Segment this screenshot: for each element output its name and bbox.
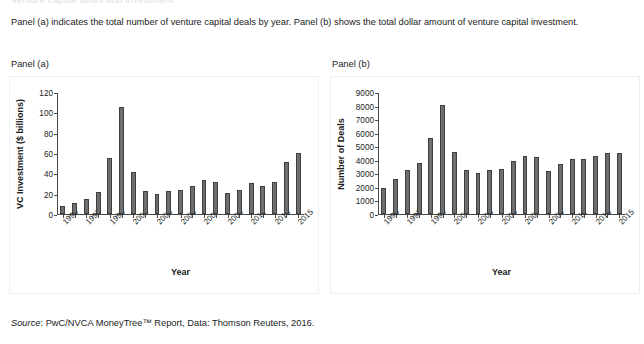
panel-b-bar-2013 bbox=[593, 156, 598, 214]
panel-b-bar-2006 bbox=[511, 161, 516, 214]
figure-page: venture capital deals and investment Pan… bbox=[0, 0, 644, 344]
panel-b-bar-1999 bbox=[428, 138, 433, 214]
clipped-header-text: venture capital deals and investment bbox=[12, 0, 173, 5]
panel-b-chart: 0100020003000400050006000700080009000199… bbox=[330, 76, 640, 294]
panel-a-y-axis-line bbox=[57, 93, 58, 215]
panel-a-bar-2010 bbox=[237, 190, 242, 214]
panel-b-bar-2007 bbox=[523, 156, 528, 214]
panel-a-bar-2004 bbox=[166, 191, 171, 214]
panel-b-xtick-mark bbox=[419, 215, 420, 218]
panel-b-xtick-mark bbox=[443, 215, 444, 218]
panel-b-bar-2011 bbox=[570, 159, 575, 214]
panel-b-xtick-mark bbox=[513, 215, 514, 218]
panel-a-xtick-mark bbox=[239, 215, 240, 218]
panel-a-bar-2008 bbox=[213, 182, 218, 214]
panel-b-xtick-mark bbox=[466, 215, 467, 218]
panel-a-ytick-mark bbox=[54, 93, 57, 94]
panel-a-xtick-mark bbox=[98, 215, 99, 218]
panel-b-bar-1996 bbox=[393, 179, 398, 214]
panel-b-ytick-mark bbox=[375, 174, 378, 175]
panel-a-bar-2014 bbox=[284, 162, 289, 214]
panel-b-bar-2014 bbox=[605, 153, 610, 214]
panel-b-ytick-mark bbox=[375, 147, 378, 148]
panel-b-bar-2015 bbox=[617, 153, 622, 214]
panel-b-ytick-mark bbox=[375, 93, 378, 94]
figure-caption: Panel (a) indicates the total number of … bbox=[11, 15, 623, 29]
panel-b-bar-2003 bbox=[476, 173, 481, 214]
panel-b-bar-2001 bbox=[452, 152, 457, 214]
panel-a-ytick-mark bbox=[54, 215, 57, 216]
panel-a-xtick-mark bbox=[263, 215, 264, 218]
panel-a-bar-2013 bbox=[272, 182, 277, 214]
panel-a-bar-1999 bbox=[107, 158, 112, 214]
panel-b-ytick-mark bbox=[375, 161, 378, 162]
panel-b-bar-2012 bbox=[581, 159, 586, 214]
panel-a-ytick-mark bbox=[54, 154, 57, 155]
panel-b-ytick-mark bbox=[375, 107, 378, 108]
panel-b-bar-2002 bbox=[464, 170, 469, 214]
panel-a-bar-2012 bbox=[260, 186, 265, 214]
panel-b-bar-2000 bbox=[440, 105, 445, 214]
panel-b-xtick-mark bbox=[584, 215, 585, 218]
panel-a-title: Panel (a) bbox=[11, 59, 49, 69]
panel-a-xtick-mark bbox=[192, 215, 193, 218]
panel-a-ytick-mark bbox=[54, 174, 57, 175]
source-label: Source bbox=[11, 318, 40, 328]
source-note: Source: PwC/NVCA MoneyTree™ Report, Data… bbox=[11, 318, 314, 328]
panel-a-ytick-mark bbox=[54, 195, 57, 196]
panel-b-xtick-mark bbox=[490, 215, 491, 218]
panel-b-x-axis-label: Year bbox=[378, 267, 625, 277]
panel-b-bar-2009 bbox=[546, 171, 551, 214]
source-value: : PwC/NVCA MoneyTree™ Report, Data: Thom… bbox=[40, 318, 314, 328]
panel-b-xtick-mark bbox=[396, 215, 397, 218]
panel-b-ytick-mark bbox=[375, 188, 378, 189]
panel-a-bar-1995 bbox=[60, 206, 65, 214]
panel-a-plot-area: 0204060801001201995199719992001200320052… bbox=[57, 93, 304, 215]
panel-b-bar-1998 bbox=[417, 163, 422, 214]
panel-b-ytick-mark bbox=[375, 201, 378, 202]
panel-a-ytick-mark bbox=[54, 113, 57, 114]
panel-a-bar-2005 bbox=[178, 190, 183, 214]
panel-a-xtick-mark bbox=[75, 215, 76, 218]
panel-b-ytick-mark bbox=[375, 134, 378, 135]
panel-a-xtick-mark bbox=[216, 215, 217, 218]
panel-b-bar-2004 bbox=[487, 170, 492, 214]
panel-a-bar-1997 bbox=[84, 199, 89, 214]
panel-a-ytick-mark bbox=[54, 134, 57, 135]
panel-b-plot-area: 0100020003000400050006000700080009000199… bbox=[378, 93, 625, 215]
panel-a-xtick-mark bbox=[286, 215, 287, 218]
panel-a-xtick-mark bbox=[169, 215, 170, 218]
panel-b-ytick-mark bbox=[375, 215, 378, 216]
panel-b-xtick-mark bbox=[537, 215, 538, 218]
panel-b-bar-1997 bbox=[405, 170, 410, 214]
panel-a-bar-2000 bbox=[119, 107, 124, 214]
panel-a-bar-2009 bbox=[225, 193, 230, 214]
panel-b-ytick-mark bbox=[375, 120, 378, 121]
panel-a-bar-2002 bbox=[143, 191, 148, 214]
panel-b-bar-2005 bbox=[499, 169, 504, 214]
panel-a-xtick-mark bbox=[145, 215, 146, 218]
panel-a-y-axis-label: VC Investment ($ billions) bbox=[15, 99, 25, 209]
panel-b-y-axis-label: Number of Deals bbox=[336, 118, 346, 190]
panel-b-xtick-mark bbox=[607, 215, 608, 218]
panel-a-x-axis-label: Year bbox=[57, 267, 304, 277]
panel-b-title: Panel (b) bbox=[332, 59, 370, 69]
panel-a-bar-2006 bbox=[190, 186, 195, 214]
panel-a-chart: 0204060801001201995199719992001200320052… bbox=[9, 76, 319, 294]
panel-b-bar-2008 bbox=[534, 157, 539, 214]
panel-a-bar-2015 bbox=[296, 153, 301, 214]
panel-b-bar-2010 bbox=[558, 164, 563, 214]
panel-b-xtick-mark bbox=[560, 215, 561, 218]
panel-a-bar-1998 bbox=[96, 192, 101, 214]
panel-a-bar-2011 bbox=[249, 183, 254, 214]
panel-b-y-axis-line bbox=[378, 93, 379, 215]
panel-a-bar-1996 bbox=[72, 203, 77, 214]
panel-a-xtick-mark bbox=[122, 215, 123, 218]
panel-a-bar-2003 bbox=[155, 194, 160, 214]
panel-b-bar-1995 bbox=[381, 188, 386, 214]
panel-a-bar-2007 bbox=[202, 180, 207, 214]
panel-a-bar-2001 bbox=[131, 172, 136, 214]
